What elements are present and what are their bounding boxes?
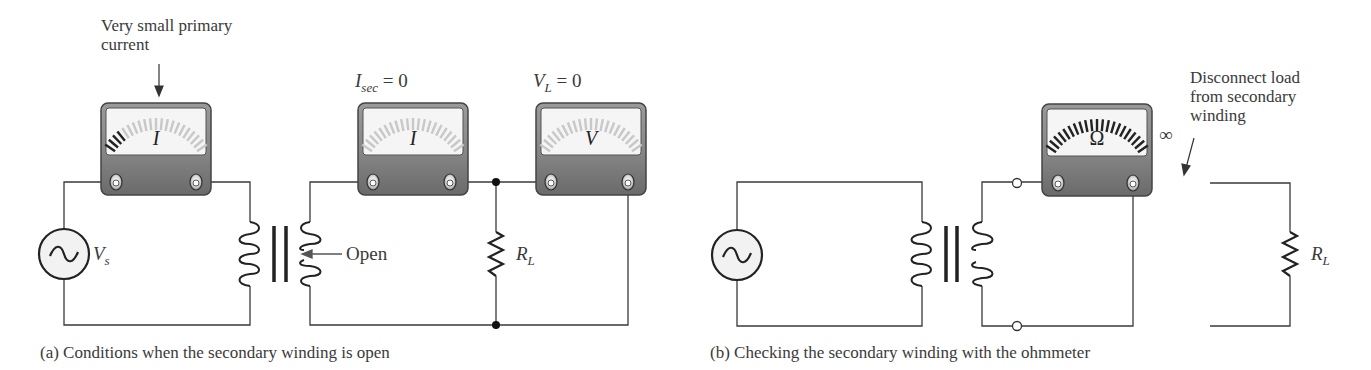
open-label: Open xyxy=(346,243,387,265)
ac-source-a xyxy=(39,229,89,279)
load-label-a: RL xyxy=(516,243,535,265)
infinity-reading: ∞ xyxy=(1159,124,1173,146)
caption-b: (b) Checking the secondary winding with … xyxy=(710,343,1090,363)
meter-face-label: I xyxy=(357,127,469,150)
annotation-line: from secondary xyxy=(1190,87,1300,106)
annotation-primary-current: Very small primary current xyxy=(101,16,232,54)
load-label-b: RL xyxy=(1311,243,1330,265)
isec-reading: Isec = 0 xyxy=(355,70,408,92)
meter-face-label: I xyxy=(100,127,212,150)
circuit-diagram xyxy=(0,0,1371,370)
resistor-b xyxy=(1283,232,1297,276)
transformer-b xyxy=(912,222,993,286)
resistor-a xyxy=(489,232,503,276)
annotation-line: Very small primary xyxy=(101,16,232,35)
annotation-line: current xyxy=(101,35,232,54)
annotation-disconnect: Disconnect load from secondary winding xyxy=(1190,68,1300,125)
annotation-line: Disconnect load xyxy=(1190,68,1300,87)
meter-face-label: V xyxy=(535,127,647,150)
ac-source-b xyxy=(712,230,762,280)
caption-a: (a) Conditions when the secondary windin… xyxy=(40,343,390,363)
annotation-line: winding xyxy=(1190,106,1300,125)
source-label: Vs xyxy=(93,243,110,265)
meter-face-label: Ω xyxy=(1041,127,1153,150)
open-arrow xyxy=(302,250,342,258)
vl-reading: VL = 0 xyxy=(533,70,582,92)
